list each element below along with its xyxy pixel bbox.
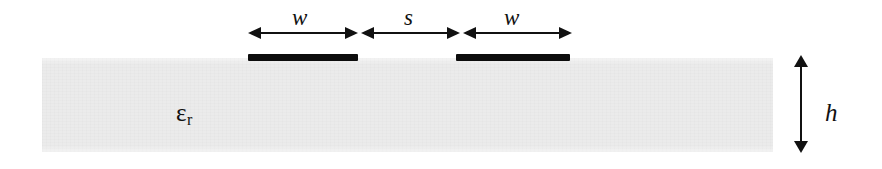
dimension-label-w-left: w <box>292 6 307 29</box>
dimension-label-s: s <box>404 6 413 29</box>
dimension-label-h: h <box>825 100 838 125</box>
dimension-arrowhead-h-bottom <box>794 141 808 153</box>
dimension-line-s <box>372 32 449 34</box>
conductor-strip-left <box>248 54 358 61</box>
dimension-arrowhead-s-end <box>447 27 460 39</box>
coupled-microstrip-cross-section-figure: w s w h εr <box>0 0 882 169</box>
epsilon-symbol: ε <box>176 99 187 126</box>
dimension-line-h <box>800 64 802 146</box>
dimension-arrowhead-w-right-end <box>559 27 572 39</box>
dimension-line-w-left <box>259 32 347 34</box>
dielectric-substrate <box>42 58 773 152</box>
conductor-strip-right <box>456 54 570 61</box>
dimension-label-w-right: w <box>504 6 519 29</box>
dimension-line-w-right <box>474 32 559 34</box>
substrate-permittivity-label: εr <box>176 100 192 128</box>
epsilon-subscript-r: r <box>187 111 192 128</box>
dimension-arrowhead-w-left-end <box>345 27 358 39</box>
